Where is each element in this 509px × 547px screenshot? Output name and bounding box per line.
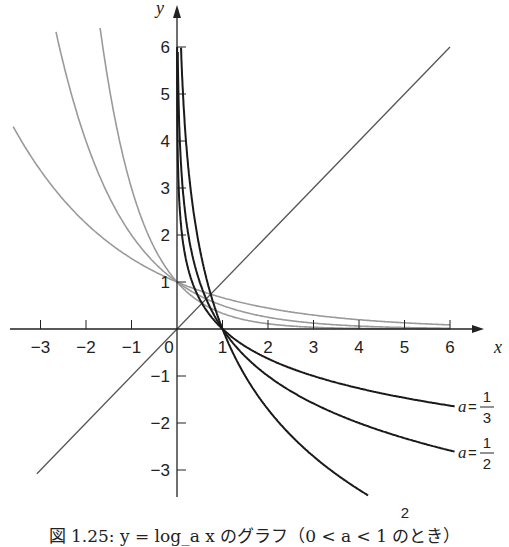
y-tick-label: 5: [161, 85, 170, 104]
y-tick-label: 4: [161, 132, 170, 151]
chart-plot: −3−2−10123456−3−2−1123456xy a=13a=12a=23: [0, 0, 509, 520]
svg-text:=: =: [386, 514, 395, 520]
svg-text:2: 2: [483, 455, 491, 472]
svg-text:2: 2: [401, 504, 409, 520]
x-tick-label: 3: [309, 338, 318, 357]
exponential-curves: [13, 28, 450, 329]
svg-text:=: =: [468, 444, 477, 461]
svg-text:a: a: [458, 397, 467, 416]
curve-label-a-1-3: a=13: [458, 388, 494, 426]
x-tick-label: 0: [164, 338, 173, 357]
exp-curve-y-1-2-x: [56, 32, 450, 328]
y-tick-label: 6: [161, 38, 170, 57]
svg-text:a: a: [376, 513, 385, 520]
y-tick-label: −1: [151, 367, 170, 386]
curve-label-a-1-2: a=12: [458, 434, 494, 472]
exp-curve-y-1-3-x: [100, 28, 450, 329]
exp-curve-y-2-3-x: [13, 127, 450, 325]
curve-labels: a=13a=12a=23: [376, 388, 494, 520]
x-tick-label: −2: [76, 338, 95, 357]
y-axis-arrow-icon: [173, 5, 181, 18]
x-axis-label: x: [493, 337, 502, 357]
x-tick-label: 6: [445, 338, 454, 357]
x-tick-label: −3: [31, 338, 50, 357]
y-tick-label: 2: [161, 226, 170, 245]
x-tick-label: 5: [400, 338, 409, 357]
svg-text:=: =: [468, 398, 477, 415]
identity-line: [37, 47, 450, 474]
x-tick-label: 1: [218, 338, 227, 357]
y-axis-label: y: [154, 0, 164, 18]
log-curve-a-1-2: [178, 52, 455, 452]
y-tick-label: −2: [151, 414, 170, 433]
svg-text:1: 1: [483, 388, 491, 405]
x-tick-label: 4: [354, 338, 363, 357]
log-curve-a-2-3: [181, 48, 368, 496]
y-tick-label: −3: [151, 461, 170, 480]
y-tick-label: 3: [161, 179, 170, 198]
line-y-equals-x: [37, 47, 450, 474]
x-tick-label: 2: [263, 338, 272, 357]
curve-label-a-2-3: a=23: [376, 504, 412, 520]
svg-text:3: 3: [483, 409, 491, 426]
svg-text:a: a: [458, 443, 467, 462]
y-tick-label: 1: [161, 273, 170, 292]
log-curves: [177, 47, 455, 495]
x-axis-arrow-icon: [472, 325, 484, 333]
svg-text:1: 1: [483, 434, 491, 451]
x-tick-label: −1: [122, 338, 141, 357]
figure-caption: 図 1.25: y = log_a x のグラフ（0 < a < 1 のとき）: [0, 522, 509, 547]
axes: −3−2−10123456−3−2−1123456xy: [10, 0, 502, 497]
